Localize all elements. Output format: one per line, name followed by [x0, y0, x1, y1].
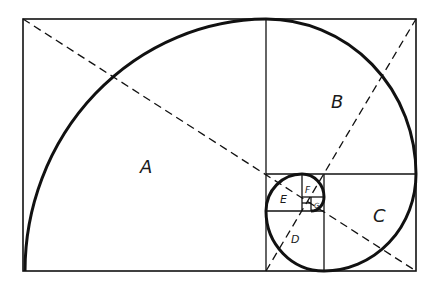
label-g: G — [314, 202, 320, 210]
diagonal-main — [23, 19, 416, 271]
golden-spiral-diagram: A B C D E F G — [0, 0, 441, 288]
label-b: B — [331, 91, 343, 112]
label-a: A — [139, 156, 152, 177]
diagonals — [23, 19, 416, 271]
label-c: C — [373, 205, 386, 226]
label-e: E — [280, 193, 287, 206]
label-d: D — [291, 233, 299, 246]
diagonal-cross — [266, 19, 416, 271]
label-f: F — [305, 185, 311, 195]
